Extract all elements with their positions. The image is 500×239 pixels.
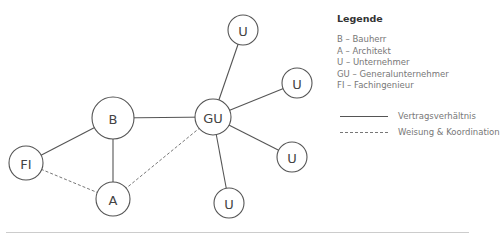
- legend-line-dashed: Weisung & Koordination: [340, 127, 500, 137]
- node-label: GU: [203, 111, 223, 126]
- node-u1: U: [228, 15, 258, 45]
- edges: [26, 30, 297, 203]
- legend-line-solid-label: Vertragsverhältnis: [398, 111, 476, 121]
- node-u4: U: [214, 188, 244, 218]
- node-label: U: [292, 77, 302, 92]
- node-label: FI: [20, 157, 31, 172]
- legend-line-solid: Vertragsverhältnis: [340, 111, 476, 121]
- legend-line-dashed-label: Weisung & Koordination: [398, 127, 500, 137]
- nodes: BAFIGUUUUU: [9, 15, 312, 218]
- legend-item-generalunternehmer: GU – Generalunternehmer: [337, 69, 449, 81]
- node-label: A: [109, 193, 118, 208]
- node-label: U: [224, 197, 234, 212]
- solid-line-sample: [340, 116, 388, 117]
- node-u3: U: [277, 142, 307, 172]
- node-fi: FI: [9, 146, 43, 180]
- legend-item-architekt: A – Architekt: [337, 46, 449, 58]
- legend-item-unternehmer: U – Unternehmer: [337, 57, 449, 69]
- node-a: A: [96, 182, 130, 216]
- node-u2: U: [282, 68, 312, 98]
- legend-item-fachingenieur: FI – Fachingenieur: [337, 80, 449, 92]
- dashed-line-sample: [340, 132, 388, 133]
- node-gu: GU: [195, 99, 231, 135]
- legend-title: Legende: [337, 13, 449, 24]
- footer-divider: [6, 232, 469, 233]
- node-label: U: [287, 151, 297, 166]
- legend: Legende B – Bauherr A – Architekt U – Un…: [337, 13, 449, 92]
- node-label: B: [109, 112, 118, 127]
- node-b: B: [92, 97, 134, 139]
- node-label: U: [238, 24, 248, 39]
- legend-item-bauherr: B – Bauherr: [337, 34, 449, 46]
